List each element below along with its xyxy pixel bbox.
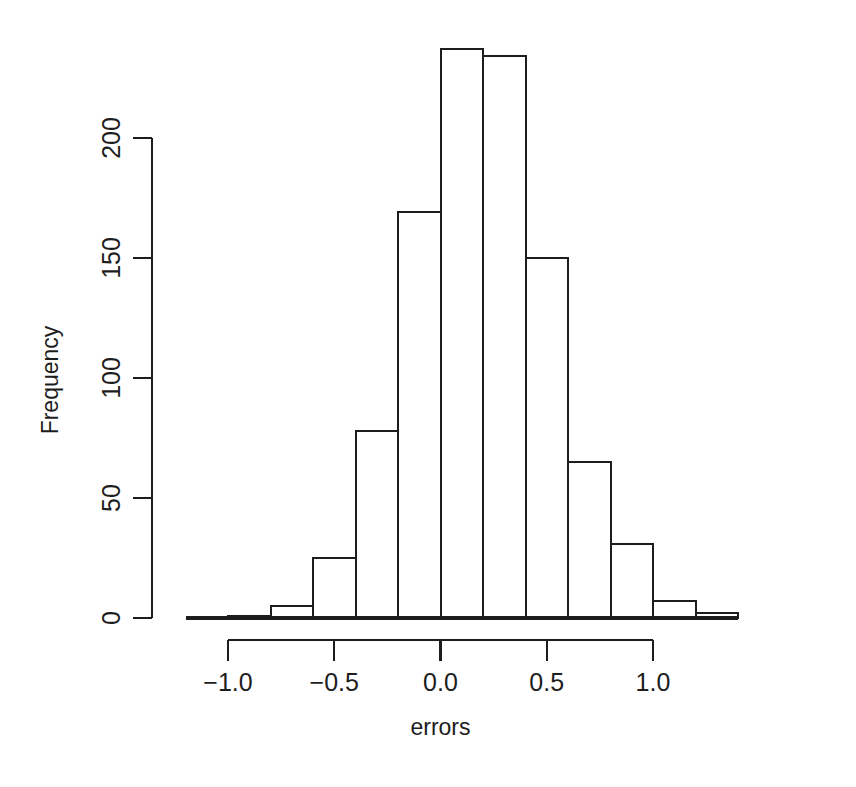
histogram-bar: [653, 601, 696, 618]
x-tick-label: −1.0: [203, 668, 252, 696]
x-axis: −1.0−0.50.00.51.0: [203, 640, 670, 696]
y-axis: 050100150200: [97, 117, 152, 625]
x-tick-label: 0.5: [529, 668, 564, 696]
x-tick-label: 0.0: [423, 668, 458, 696]
histogram-canvas: 050100150200 −1.0−0.50.00.51.0 errors Fr…: [0, 0, 856, 787]
histogram-bar: [398, 212, 441, 618]
histogram-bar: [271, 606, 314, 618]
histogram-plot: 050100150200 −1.0−0.50.00.51.0 errors Fr…: [0, 0, 856, 787]
y-axis-title: Frequency: [37, 325, 63, 434]
x-axis-title: errors: [410, 714, 470, 740]
y-tick-label: 50: [97, 484, 125, 512]
y-tick-label: 0: [97, 611, 125, 625]
histogram-bar: [356, 431, 399, 618]
histogram-bar: [483, 56, 526, 618]
histogram-bar: [611, 544, 654, 618]
y-axis-ticks: [133, 138, 152, 618]
y-axis-tick-labels: 050100150200: [97, 117, 125, 625]
y-tick-label: 200: [97, 117, 125, 159]
histogram-bars: [228, 49, 738, 618]
x-axis-tick-labels: −1.0−0.50.00.51.0: [203, 668, 670, 696]
x-axis-ticks: [228, 640, 653, 661]
x-tick-label: −0.5: [310, 668, 359, 696]
histogram-bar: [313, 558, 356, 618]
histogram-bar: [568, 462, 611, 618]
histogram-bar: [526, 258, 569, 618]
x-tick-label: 1.0: [636, 668, 671, 696]
y-tick-label: 100: [97, 357, 125, 399]
histogram-bar: [441, 49, 484, 618]
y-tick-label: 150: [97, 237, 125, 279]
